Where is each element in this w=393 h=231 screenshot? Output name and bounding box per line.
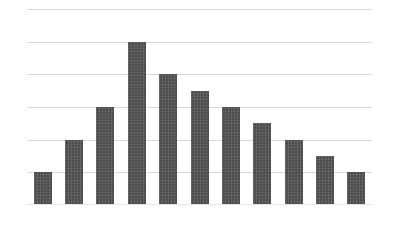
bar [222, 107, 240, 205]
bar [65, 140, 83, 205]
bar [253, 123, 271, 205]
bar [96, 107, 114, 205]
bar [159, 74, 177, 205]
bar [191, 91, 209, 205]
bar-chart [0, 0, 393, 231]
bar [316, 156, 334, 205]
baseline-axis [27, 204, 372, 205]
bars-series [27, 9, 372, 205]
plot-area [27, 9, 372, 205]
bar [34, 172, 52, 205]
bar [347, 172, 365, 205]
bar [285, 140, 303, 205]
bar [128, 42, 146, 205]
